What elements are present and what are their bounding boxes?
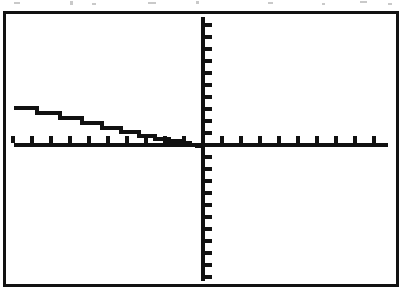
x-axis-tick	[296, 136, 300, 143]
scan-speck	[268, 2, 273, 4]
x-axis-tick	[87, 136, 91, 143]
x-axis-tick	[220, 136, 224, 143]
x-axis-tick	[315, 136, 319, 143]
scan-speck	[14, 2, 20, 4]
y-axis-tick	[205, 47, 212, 51]
x-axis-tick	[30, 136, 34, 143]
chart-description: A monotonically decreasing staircase in …	[0, 0, 1, 1]
y-axis-tick	[205, 191, 212, 195]
y-axis-tick	[205, 203, 212, 207]
x-axis-tick	[258, 136, 262, 143]
scan-speck	[388, 3, 392, 5]
x-axis-tick	[277, 136, 281, 143]
y-axis-tick	[205, 131, 212, 135]
y-axis-tick	[205, 263, 212, 267]
y-axis-tick	[205, 95, 212, 99]
scan-speck	[92, 3, 96, 5]
y-axis-tick	[205, 167, 212, 171]
step-tread	[82, 121, 102, 125]
y-axis-tick	[205, 83, 212, 87]
y-axis-tick	[205, 179, 212, 183]
scan-speck	[196, 1, 199, 4]
step-tread	[60, 116, 82, 120]
y-axis-tick	[205, 23, 212, 27]
step-tread	[37, 111, 60, 115]
y-axis-tick	[205, 71, 212, 75]
scan-artifact-band	[0, 0, 406, 9]
y-axis-tick	[205, 119, 212, 123]
y-axis-tick	[205, 155, 212, 159]
y-axis-tick	[205, 35, 212, 39]
x-axis-tick	[11, 136, 15, 143]
y-axis-tick	[205, 107, 212, 111]
scan-speck	[70, 1, 73, 5]
x-axis-tick	[239, 136, 243, 143]
plot-area	[6, 14, 396, 284]
x-axis-tick	[353, 136, 357, 143]
y-axis-tick	[205, 251, 212, 255]
scan-speck	[322, 3, 325, 5]
y-axis-tick	[205, 59, 212, 63]
y-axis-tick	[205, 275, 212, 279]
x-axis-tick	[125, 136, 129, 143]
x-axis-tick	[68, 136, 72, 143]
scan-speck	[148, 2, 156, 4]
screenshot-root: A monotonically decreasing staircase in …	[0, 0, 406, 300]
calculator-screen-frame	[3, 11, 399, 287]
step-tread	[197, 144, 203, 148]
y-axis-tick	[205, 227, 212, 231]
screen-caption: Graphing calculator display showing a de…	[0, 0, 1, 1]
x-axis-tick	[372, 136, 376, 143]
x-axis-tick	[106, 136, 110, 143]
x-axis-tick	[334, 136, 338, 143]
step-tread	[14, 106, 37, 110]
scan-speck	[360, 1, 367, 3]
y-axis-tick	[205, 239, 212, 243]
y-axis-tick	[205, 215, 212, 219]
x-axis-tick	[49, 136, 53, 143]
